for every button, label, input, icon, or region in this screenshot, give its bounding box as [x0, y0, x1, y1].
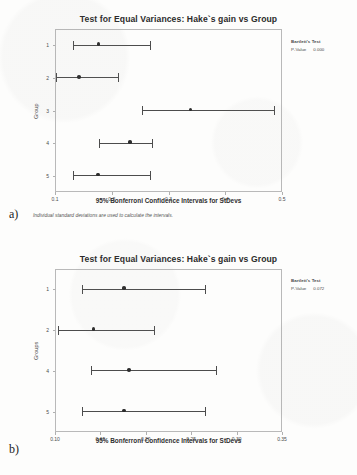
y-tick-label: 5: [35, 173, 49, 179]
y-tick-mark: [53, 45, 56, 46]
p-value-b: 0.072: [313, 285, 324, 293]
panel-tag-b: b): [9, 442, 19, 457]
x-tick-mark: [55, 192, 56, 195]
x-tick-mark: [237, 432, 238, 435]
bartlett-test-annotation-b: Bartlett's Test P-Value 0.072: [291, 277, 324, 293]
x-tick-mark: [282, 192, 283, 195]
y-tick-mark: [53, 412, 56, 413]
confidence-interval: [56, 73, 120, 82]
x-tick-mark: [112, 192, 113, 195]
y-tick-label: 4: [35, 140, 49, 146]
interval-line: [58, 330, 155, 331]
interval-line: [142, 110, 274, 111]
figure-panel-a: Test for Equal Variances: Hake`s gain vs…: [0, 0, 357, 237]
interval-upper-cap: [152, 139, 153, 148]
chart-title-b: Test for Equal Variances: Hake`s gain vs…: [0, 254, 357, 264]
interval-center-marker: [128, 140, 132, 144]
interval-lower-cap: [73, 41, 74, 50]
interval-line: [91, 370, 217, 371]
confidence-interval: [91, 366, 217, 375]
y-tick-mark: [53, 371, 56, 372]
x-tick-label: 0.4: [214, 196, 236, 202]
y-tick-label: 3: [35, 108, 49, 114]
confidence-interval: [82, 285, 205, 294]
y-axis-label-b: Groups: [33, 341, 39, 359]
footnote-a: Individual standard deviations are used …: [33, 213, 173, 218]
interval-lower-cap: [73, 171, 74, 180]
interval-center-marker: [122, 409, 126, 413]
interval-center-marker: [127, 368, 131, 372]
interval-lower-cap: [99, 139, 100, 148]
p-value-label-a: P-Value: [291, 46, 306, 54]
confidence-interval: [99, 139, 153, 148]
y-tick-mark: [53, 289, 56, 290]
interval-lower-cap: [82, 407, 83, 416]
x-tick-mark: [100, 432, 101, 435]
interval-line: [82, 289, 205, 290]
x-tick-mark: [146, 432, 147, 435]
bartlett-test-annotation-a: Bartlett's Test P-Value 0.000: [291, 38, 324, 54]
x-tick-label: 0.10: [44, 436, 66, 442]
y-tick-mark: [53, 111, 56, 112]
x-tick-mark: [282, 432, 283, 435]
x-tick-label: 0.15: [89, 436, 111, 442]
interval-center-marker: [122, 286, 126, 290]
p-value-label-b: P-Value: [291, 285, 306, 293]
panel-tag-a: a): [9, 207, 18, 222]
interval-lower-cap: [58, 326, 59, 335]
interval-upper-cap: [216, 366, 217, 375]
x-tick-label: 0.20: [135, 436, 157, 442]
x-tick-mark: [169, 192, 170, 195]
x-tick-label: 0.2: [101, 196, 123, 202]
interval-upper-cap: [154, 326, 155, 335]
scanned-page: Test for Equal Variances: Hake`s gain vs…: [0, 0, 357, 475]
bartlett-label-a: Bartlett's Test: [291, 38, 324, 46]
y-tick-label: 4: [35, 368, 49, 374]
interval-upper-cap: [150, 41, 151, 50]
confidence-interval: [142, 106, 274, 115]
confidence-interval: [73, 171, 151, 180]
interval-line: [73, 175, 151, 176]
x-tick-label: 0.1: [44, 196, 66, 202]
interval-lower-cap: [91, 366, 92, 375]
y-tick-mark: [53, 330, 56, 331]
interval-upper-cap: [150, 171, 151, 180]
interval-upper-cap: [205, 407, 206, 416]
confidence-interval: [58, 326, 155, 335]
y-tick-label: 1: [35, 286, 49, 292]
x-tick-label: 0.30: [226, 436, 248, 442]
x-tick-label: 0.25: [180, 436, 202, 442]
bartlett-label-b: Bartlett's Test: [291, 277, 324, 285]
x-tick-mark: [191, 432, 192, 435]
interval-line: [73, 45, 151, 46]
interval-line: [56, 77, 120, 78]
chart-title-a: Test for Equal Variances: Hake`s gain vs…: [0, 14, 357, 24]
interval-center-marker: [77, 75, 81, 79]
interval-upper-cap: [205, 285, 206, 294]
y-tick-label: 2: [35, 327, 49, 333]
x-tick-mark: [55, 432, 56, 435]
x-tick-label: 0.3: [158, 196, 180, 202]
interval-upper-cap: [274, 106, 275, 115]
x-tick-label: 0.35: [271, 436, 293, 442]
interval-lower-cap: [56, 73, 57, 82]
y-tick-mark: [53, 176, 56, 177]
y-tick-label: 1: [35, 42, 49, 48]
interval-line: [99, 143, 153, 144]
interval-lower-cap: [142, 106, 143, 115]
interval-line: [82, 411, 205, 412]
confidence-interval: [73, 41, 151, 50]
interval-lower-cap: [82, 285, 83, 294]
figure-panel-b: Test for Equal Variances: Hake`s gain vs…: [0, 237, 357, 475]
x-tick-label: 0.5: [271, 196, 293, 202]
y-tick-label: 5: [35, 409, 49, 415]
y-tick-mark: [53, 143, 56, 144]
interval-upper-cap: [118, 73, 119, 82]
y-tick-label: 2: [35, 75, 49, 81]
confidence-interval: [82, 407, 205, 416]
x-tick-mark: [225, 192, 226, 195]
p-value-a: 0.000: [313, 46, 324, 54]
